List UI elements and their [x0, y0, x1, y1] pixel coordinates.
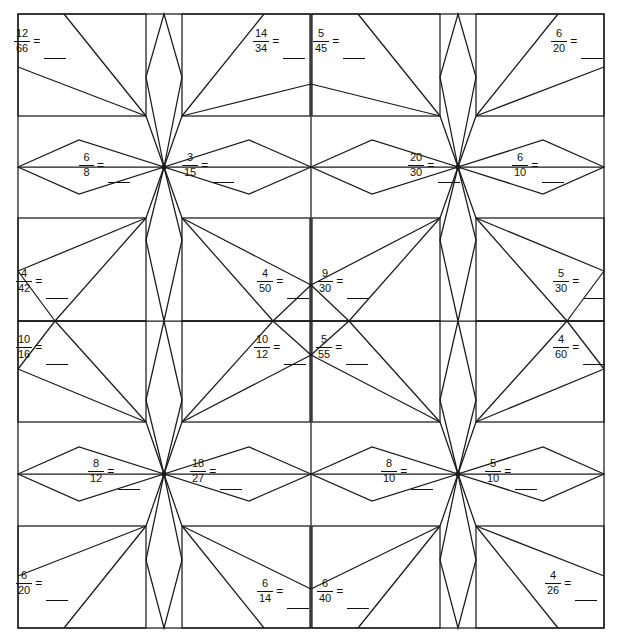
worksheet-page: 1266=1434=545=620=68=315=2030=610=442=45…	[0, 0, 618, 636]
equals-sign: =	[427, 159, 434, 171]
fraction-numerator: 5	[319, 334, 329, 346]
answer-blank[interactable]	[542, 182, 564, 184]
answer-blank[interactable]	[581, 58, 603, 60]
answer-blank[interactable]	[583, 364, 605, 366]
equals-sign: =	[572, 275, 579, 287]
fraction-denominator: 42	[16, 283, 32, 295]
answer-blank[interactable]	[46, 298, 68, 300]
answer-blank[interactable]	[583, 298, 605, 300]
fraction-numerator: 5	[316, 28, 326, 40]
answer-blank[interactable]	[284, 364, 306, 366]
fraction-numerator: 6	[19, 570, 29, 582]
fraction-problem-p24: 426=	[545, 570, 597, 596]
equals-sign: =	[209, 465, 216, 477]
fraction-numerator: 20	[408, 152, 424, 164]
fraction-stack: 530	[553, 268, 569, 294]
fraction-stack: 1266	[14, 28, 30, 54]
fraction-numerator: 4	[556, 334, 566, 346]
fraction-stack: 1827	[190, 458, 206, 484]
equals-sign: =	[35, 577, 42, 589]
fraction-numerator: 4	[548, 570, 558, 582]
answer-blank[interactable]	[46, 600, 68, 602]
fraction-problem-p9: 442=	[16, 268, 68, 294]
fraction-numerator: 8	[384, 458, 394, 470]
fraction-numerator: 3	[185, 152, 195, 164]
answer-blank[interactable]	[287, 608, 309, 610]
fraction-problem-p23: 640=	[317, 578, 369, 604]
equals-sign: =	[107, 465, 114, 477]
fraction-denominator: 34	[253, 43, 269, 55]
equals-sign: =	[335, 341, 342, 353]
answer-blank[interactable]	[118, 489, 140, 491]
fraction-numerator: 18	[190, 458, 206, 470]
fraction-numerator: 10	[254, 334, 270, 346]
fraction-problem-p4: 620=	[551, 28, 603, 54]
equals-sign: =	[276, 585, 283, 597]
answer-blank[interactable]	[411, 489, 433, 491]
equals-sign: =	[564, 577, 571, 589]
fraction-numerator: 4	[19, 268, 29, 280]
fraction-stack: 315	[182, 152, 198, 178]
fraction-stack: 450	[257, 268, 273, 294]
fraction-stack: 545	[313, 28, 329, 54]
fraction-numerator: 14	[253, 28, 269, 40]
answer-blank[interactable]	[438, 182, 460, 184]
fraction-stack: 2030	[408, 152, 424, 178]
fraction-stack: 810	[381, 458, 397, 484]
answer-blank[interactable]	[108, 182, 130, 184]
answer-blank[interactable]	[287, 298, 309, 300]
quilt-pattern-graphic	[0, 0, 618, 636]
fraction-stack: 510	[485, 458, 501, 484]
equals-sign: =	[201, 159, 208, 171]
fraction-problem-p20: 510=	[485, 458, 537, 484]
answer-blank[interactable]	[347, 608, 369, 610]
answer-blank[interactable]	[343, 58, 365, 60]
answer-blank[interactable]	[220, 489, 242, 491]
equals-sign: =	[400, 465, 407, 477]
answer-blank[interactable]	[575, 600, 597, 602]
equals-sign: =	[570, 35, 577, 47]
answer-blank[interactable]	[515, 489, 537, 491]
answer-blank[interactable]	[283, 58, 305, 60]
answer-blank[interactable]	[212, 182, 234, 184]
fraction-problem-p15: 555=	[316, 334, 368, 360]
fraction-problem-p3: 545=	[313, 28, 365, 54]
answer-blank[interactable]	[346, 364, 368, 366]
fraction-denominator: 10	[512, 167, 528, 179]
fraction-problem-p10: 450=	[257, 268, 309, 294]
fraction-problem-p2: 1434=	[253, 28, 305, 54]
fraction-numerator: 5	[556, 268, 566, 280]
fraction-numerator: 5	[488, 458, 498, 470]
answer-blank[interactable]	[347, 298, 369, 300]
fraction-numerator: 9	[320, 268, 330, 280]
equals-sign: =	[504, 465, 511, 477]
equals-sign: =	[332, 35, 339, 47]
fraction-denominator: 12	[88, 473, 104, 485]
fraction-problem-p8: 610=	[512, 152, 564, 178]
fraction-stack: 620	[16, 570, 32, 596]
fraction-numerator: 6	[320, 578, 330, 590]
equals-sign: =	[35, 341, 42, 353]
fraction-stack: 620	[551, 28, 567, 54]
fraction-denominator: 15	[182, 167, 198, 179]
fraction-denominator: 45	[313, 43, 329, 55]
fraction-denominator: 14	[257, 593, 273, 605]
fraction-problem-p21: 620=	[16, 570, 68, 596]
equals-sign: =	[35, 275, 42, 287]
fraction-numerator: 10	[16, 334, 32, 346]
fraction-denominator: 55	[316, 349, 332, 361]
fraction-problem-p14: 1012=	[254, 334, 306, 360]
equals-sign: =	[531, 159, 538, 171]
fraction-problem-p22: 614=	[257, 578, 309, 604]
fraction-numerator: 6	[554, 28, 564, 40]
fraction-numerator: 6	[260, 578, 270, 590]
fraction-stack: 640	[317, 578, 333, 604]
fraction-denominator: 40	[317, 593, 333, 605]
fraction-stack: 460	[553, 334, 569, 360]
fraction-numerator: 6	[81, 152, 91, 164]
equals-sign: =	[276, 275, 283, 287]
answer-blank[interactable]	[46, 364, 68, 366]
equals-sign: =	[273, 341, 280, 353]
fraction-denominator: 27	[190, 473, 206, 485]
answer-blank[interactable]	[44, 58, 66, 60]
